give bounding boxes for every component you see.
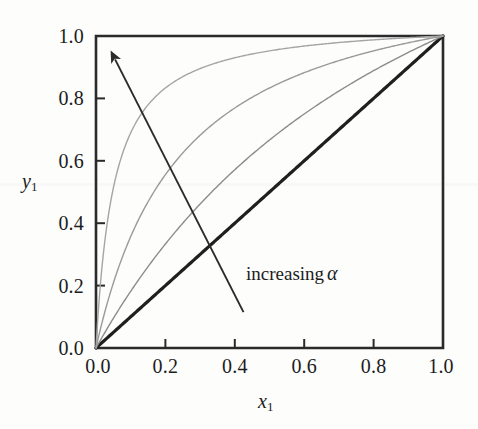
x-tick-label-5: 1.0 [428,355,454,378]
x-axis-title-symbol: x [258,390,267,412]
y-tick-label-4: 0.8 [26,87,84,110]
y-axis-title-symbol: y [22,170,31,192]
y-tick-label-5: 1.0 [26,25,84,48]
x-tick-label-4: 0.8 [361,355,387,378]
x-axis-title-subscript: 1 [267,399,274,414]
equilibrium-curves [96,36,443,348]
annotation-word: increasing [246,263,324,284]
y-tick-label-3: 0.6 [26,149,84,172]
alpha-symbol: α [324,262,338,284]
x-tick-label-2: 0.4 [222,355,248,378]
y-tick-label-1: 0.2 [26,274,84,297]
y-axis-title-subscript: 1 [31,179,38,194]
y-tick-label-2: 0.4 [26,212,84,235]
x-tick-label-0: 0.0 [85,355,111,378]
y-tick-label-0: 0.0 [26,337,84,360]
x-tick-label-1: 0.2 [153,355,179,378]
curve-alpha-1 [96,36,443,348]
x-axis-title: x1 [258,390,273,415]
increasing-alpha-label: increasingα [246,262,338,285]
chart-figure: 0.0 0.2 0.4 0.6 0.8 1.0 0.0 0.2 0.4 0.6 … [0,0,478,429]
y-axis-title: y1 [22,170,37,195]
x-tick-label-3: 0.6 [291,355,317,378]
